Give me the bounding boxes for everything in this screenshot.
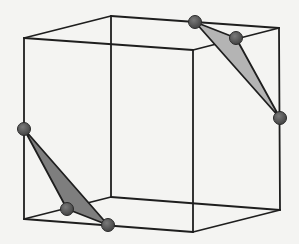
sphere-top-3-icon (274, 112, 287, 125)
sphere-top-1-icon (189, 16, 202, 29)
cube-edge-front-bottom-right-to-back-bottom-right (193, 210, 280, 232)
sphere-bottom-1-icon (18, 123, 31, 136)
sphere-bottom-2-icon (61, 203, 74, 216)
sphere-bottom-3-icon (102, 219, 115, 232)
cube-edge-back-bottom-right-to-back-bottom-left (111, 197, 280, 210)
cross-sections (24, 22, 280, 225)
cube-edge-front-top-left-to-front-top-right (24, 38, 193, 50)
cube-diagram (0, 0, 299, 244)
cube-edge-back-top-left-to-front-top-left (24, 16, 111, 38)
sphere-top-2-icon (230, 32, 243, 45)
